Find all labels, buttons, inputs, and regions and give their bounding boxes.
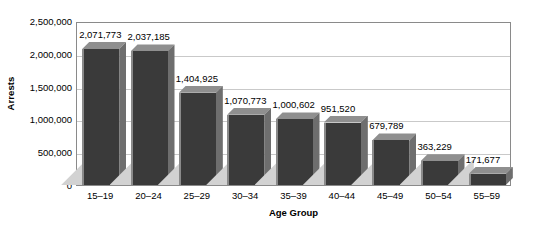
y-axis-tick-label: 500,000 [10, 148, 72, 158]
y-axis-tick-label: 1,500,000 [10, 83, 72, 93]
bar [324, 116, 368, 185]
plot-area: 2,071,7732,037,1851,404,9251,070,7731,00… [76, 22, 511, 186]
bar-top-face [179, 86, 223, 93]
bar-value-label: 171,677 [466, 155, 500, 165]
x-axis-title: Age Group [76, 207, 511, 218]
bars-layer: 2,071,7732,037,1851,404,9251,070,7731,00… [77, 23, 510, 185]
bar-top-face [82, 42, 126, 49]
bar [131, 44, 175, 185]
y-axis-tick-label: 0 [10, 181, 72, 191]
x-axis-tick-label: 45–49 [366, 190, 414, 201]
x-axis-tick-label: 40–44 [318, 190, 366, 201]
bar [276, 112, 320, 185]
y-axis-tick-labels: 0500,0001,000,0001,500,0002,000,0002,500… [8, 0, 72, 235]
x-axis-tick-label: 35–39 [269, 190, 317, 201]
x-axis-tick-label: 30–34 [221, 190, 269, 201]
bar-front-face [324, 123, 361, 185]
bar-value-label: 2,037,185 [128, 32, 170, 42]
bar-front-face [179, 93, 216, 185]
bar-top-face [372, 133, 416, 140]
bar-value-label: 1,404,925 [176, 74, 218, 84]
x-axis-tick-label: 50–54 [414, 190, 462, 201]
bar-top-face [131, 44, 175, 51]
bar-value-label: 2,071,773 [79, 30, 121, 40]
bar-front-face [372, 140, 409, 185]
bar-side-face [168, 44, 175, 185]
bar-front-face [227, 115, 264, 185]
bar [179, 86, 223, 185]
x-axis-tick-label: 15–19 [76, 190, 124, 201]
bar-top-face [469, 167, 513, 174]
x-axis-tick-label: 55–59 [463, 190, 511, 201]
bar-top-face [227, 108, 271, 115]
bar-value-label: 363,229 [418, 142, 452, 152]
bar-front-face [276, 119, 313, 185]
bar-side-face [119, 42, 126, 185]
bar-chart: Arrests 0500,0001,000,0001,500,0002,000,… [0, 0, 534, 235]
bar-value-label: 1,000,602 [273, 100, 315, 110]
bar [469, 167, 513, 185]
bar-value-label: 951,520 [321, 104, 355, 114]
y-axis-tick-label: 2,500,000 [10, 17, 72, 27]
bar-value-label: 1,070,773 [224, 96, 266, 106]
bar [227, 108, 271, 185]
bar-front-face [131, 51, 168, 185]
y-axis-tick-label: 1,000,000 [10, 115, 72, 125]
bar-top-face [324, 116, 368, 123]
x-axis-tick-labels: 15–1920–2425–2930–3435–3940–4445–4950–54… [76, 190, 511, 204]
bar-top-face [421, 154, 465, 161]
bar [82, 42, 126, 185]
bar-value-label: 679,789 [369, 121, 403, 131]
y-axis-tick-label: 2,000,000 [10, 50, 72, 60]
bar-top-face [276, 112, 320, 119]
x-axis-tick-label: 25–29 [173, 190, 221, 201]
x-axis-tick-label: 20–24 [124, 190, 172, 201]
bar-front-face [469, 174, 506, 185]
bar-front-face [82, 49, 119, 185]
